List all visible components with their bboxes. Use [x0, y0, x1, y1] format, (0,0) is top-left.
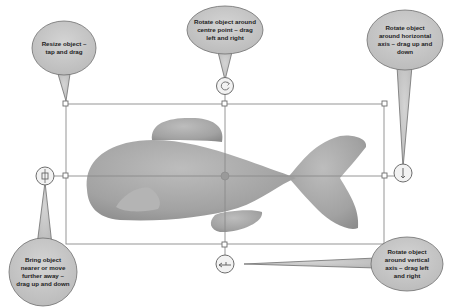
rotate-vertical-handle[interactable] [216, 255, 234, 273]
rotate-centre-handle[interactable] [217, 78, 234, 95]
callout-rotate-horizontal-text: Rotate object around horizontal axis – d… [375, 20, 435, 60]
resize-handle-bottom-center[interactable] [222, 242, 227, 247]
callout-rotate-vertical-text: Rotate object around vertical axis – dra… [380, 246, 434, 282]
callout-depth-text: Bring object nearer or move further away… [15, 250, 71, 294]
callout-resize-text: Resize object – tap and drag [38, 34, 90, 62]
rotate-horizontal-handle[interactable] [394, 164, 412, 182]
centre-pivot [221, 172, 229, 180]
resize-handle-middle-right[interactable] [382, 173, 387, 178]
depth-handle[interactable] [36, 167, 54, 185]
resize-handle-top-left[interactable] [63, 101, 68, 106]
resize-handle-middle-left[interactable] [63, 173, 68, 178]
callout-rotate-centre-text: Rotate object around centre point – drag… [193, 14, 257, 46]
resize-handle-top-right[interactable] [382, 101, 387, 106]
resize-handle-top-center[interactable] [222, 101, 227, 106]
